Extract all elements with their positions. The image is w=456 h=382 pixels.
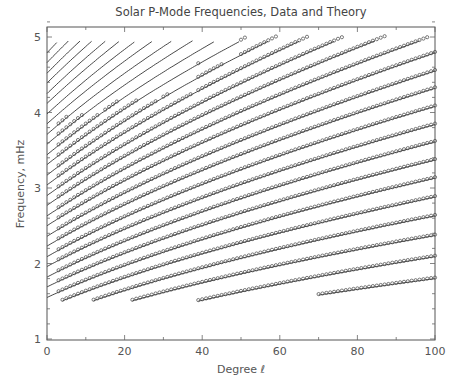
y-tick-labels: 12345 xyxy=(34,31,41,346)
theory-ridge-line xyxy=(47,41,68,63)
x-tick-label: 20 xyxy=(118,345,132,358)
data-point xyxy=(274,35,277,38)
data-point xyxy=(92,298,95,301)
y-tick-label: 4 xyxy=(34,107,41,120)
theory-ridge-line xyxy=(47,41,105,93)
data-point xyxy=(131,298,134,301)
chart-title: Solar P-Mode Frequencies, Data and Theor… xyxy=(115,5,367,19)
theory-ridge-line xyxy=(47,42,134,114)
y-tick-label: 2 xyxy=(34,258,41,271)
data-point xyxy=(383,35,386,38)
theory-ridge-line xyxy=(47,41,268,175)
data-point xyxy=(340,36,343,39)
data-point xyxy=(379,36,382,39)
data-point xyxy=(305,35,308,38)
x-tick-label: 60 xyxy=(273,345,287,358)
theory-ridge-line xyxy=(47,41,92,83)
y-axis-label: Frequency, mHz xyxy=(14,139,27,228)
theory-ridge-line xyxy=(47,43,57,53)
data-point xyxy=(243,36,246,39)
data-point xyxy=(197,299,200,302)
data-point xyxy=(61,298,64,301)
data-point xyxy=(375,38,378,41)
x-tick-label: 40 xyxy=(195,345,209,358)
y-tick-label: 1 xyxy=(34,333,41,346)
x-tick-label: 0 xyxy=(44,345,51,358)
theory-ridge-line xyxy=(47,41,299,185)
x-tick-label: 100 xyxy=(425,345,446,358)
theory-ridge-line xyxy=(319,279,435,296)
y-tick-label: 3 xyxy=(34,182,41,195)
data-point xyxy=(317,293,320,296)
x-axis-label: Degree ℓ xyxy=(217,363,265,376)
p-mode-chart: Solar P-Mode Frequencies, Data and Theor… xyxy=(0,0,456,382)
y-tick-label: 5 xyxy=(34,31,41,44)
data-point xyxy=(239,38,242,41)
x-tick-labels: 020406080100 xyxy=(44,345,446,358)
x-tick-label: 80 xyxy=(350,345,364,358)
data-point xyxy=(422,37,425,40)
data-point xyxy=(426,36,429,39)
theory-ridge-line xyxy=(47,53,435,226)
data-point xyxy=(270,37,273,40)
plot-area xyxy=(47,35,437,302)
data-point xyxy=(336,37,339,40)
data-point xyxy=(302,37,305,40)
theory-ridge-line xyxy=(47,41,193,144)
theory-ridge-line xyxy=(47,41,171,134)
